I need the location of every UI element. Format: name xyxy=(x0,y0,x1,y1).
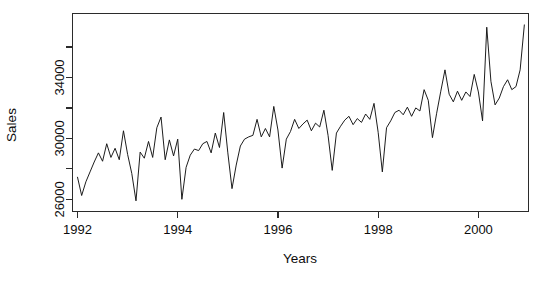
y-axis-ticks xyxy=(66,47,73,199)
x-tick-label-1992: 1992 xyxy=(63,222,92,237)
y-tick-label-34000: 34000 xyxy=(52,59,67,95)
sales-series-line xyxy=(78,25,525,201)
y-tick-label-26000: 26000 xyxy=(52,181,67,217)
y-axis-title: Sales xyxy=(4,108,19,142)
x-tick-label-1994: 1994 xyxy=(163,222,192,237)
x-tick-label-1998: 1998 xyxy=(364,222,393,237)
sales-time-series-chart: 260003000034000 19921994199619982000 Sal… xyxy=(0,0,544,282)
y-axis-tick-labels: 260003000034000 xyxy=(52,59,67,217)
x-tick-label-2000: 2000 xyxy=(464,222,493,237)
plot-panel-border xyxy=(73,14,529,212)
x-axis-title: Years xyxy=(283,251,317,266)
x-tick-label-1996: 1996 xyxy=(263,222,292,237)
y-tick-label-30000: 30000 xyxy=(52,120,67,156)
x-axis-tick-labels: 19921994199619982000 xyxy=(63,222,493,237)
x-axis-ticks xyxy=(78,212,479,219)
chart-figure: 260003000034000 19921994199619982000 Sal… xyxy=(0,0,544,282)
